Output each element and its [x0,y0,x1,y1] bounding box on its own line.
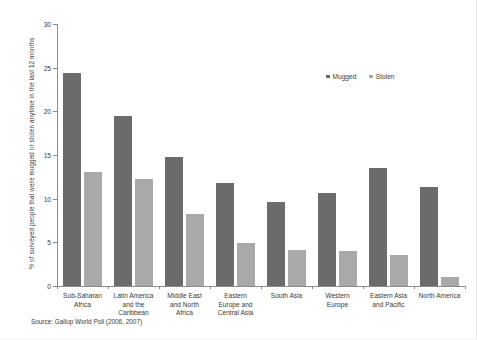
plot-area: 051015202530 Sub-SaharanAfricaLatin Amer… [57,24,465,286]
bar-mugged [216,183,235,286]
bar-mugged [369,168,388,286]
y-tick-mark [53,24,57,25]
y-tick-label: 0 [47,283,51,290]
bar-stolen [390,255,409,286]
y-tick-mark [53,111,57,112]
y-tick-label: 5 [47,239,51,246]
y-tick-mark [53,68,57,69]
y-tick-mark [53,155,57,156]
x-tick-mark [261,286,262,289]
source-note: Source: Gallup World Poll (2006, 2007) [31,318,142,325]
x-tick-mark [108,286,109,289]
legend-swatch-icon [326,75,330,79]
bar-stolen [441,277,460,286]
y-tick-label: 10 [44,195,51,202]
x-tick-mark [465,286,466,289]
bar-stolen [339,251,358,286]
chart-legend: MuggedStolen [326,73,395,80]
bar-stolen [288,250,307,286]
x-tick-mark [414,286,415,289]
bar-stolen [84,172,103,286]
chart-figure: % of surveyed people that were mugged or… [0,0,477,340]
bar-group [369,24,409,286]
bar-mugged [114,116,133,286]
legend-swatch-icon [369,75,373,79]
x-tick-mark [363,286,364,289]
legend-label: Mugged [333,73,357,80]
y-axis-line [57,24,58,286]
legend-item-mugged[interactable]: Mugged [326,73,356,80]
x-tick-mark [159,286,160,289]
y-tick-mark [53,199,57,200]
x-category-label: North America [410,292,469,301]
bar-mugged [63,73,82,286]
y-tick-mark [53,242,57,243]
y-tick-label: 25 [44,64,51,71]
bar-mugged [420,187,439,286]
legend-item-stolen[interactable]: Stolen [369,73,394,80]
x-tick-mark [210,286,211,289]
bar-group [318,24,358,286]
y-tick-label: 20 [44,108,51,115]
bar-group [267,24,307,286]
bar-group [165,24,205,286]
x-tick-mark [312,286,313,289]
bar-stolen [237,243,256,286]
bar-group [114,24,154,286]
bar-stolen [135,179,154,286]
y-tick-label: 15 [44,152,51,159]
bar-mugged [318,193,337,286]
bar-group [420,24,460,286]
legend-label: Stolen [376,73,395,80]
y-tick-label: 30 [44,21,51,28]
bar-mugged [267,202,286,286]
y-axis-title: % of surveyed people that were mugged or… [28,20,35,288]
x-tick-mark [57,286,58,289]
bar-group [63,24,103,286]
bar-group [216,24,256,286]
bar-mugged [165,157,184,286]
bar-stolen [186,214,205,286]
